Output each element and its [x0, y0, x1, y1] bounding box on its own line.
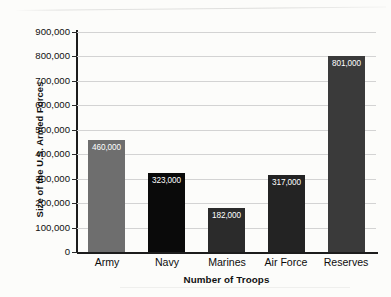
- x-axis-line: [77, 252, 378, 254]
- y-axis-tick-label: 900,000: [8, 26, 70, 37]
- plot-area: 460,000323,000182,000317,000801,000: [77, 32, 376, 252]
- bar-reserves: 801,000: [328, 56, 365, 252]
- y-axis-tick-label: 0: [8, 246, 70, 257]
- y-axis-tick-label: 200,000: [8, 197, 70, 208]
- y-axis-tick-label: 300,000: [8, 173, 70, 184]
- x-axis-title: Number of Troops: [77, 274, 376, 285]
- bar-navy: 323,000: [148, 173, 185, 252]
- bar-value-label: 182,000: [208, 211, 245, 220]
- bar-value-label: 801,000: [328, 59, 365, 68]
- scan-artifact-line-top: [14, 6, 386, 11]
- y-axis-tick-label: 800,000: [8, 50, 70, 61]
- y-axis-tick-label: 400,000: [8, 148, 70, 159]
- x-axis-tick-label: Reserves: [301, 256, 391, 268]
- y-axis-tick-label: 700,000: [8, 75, 70, 86]
- bar-value-label: 323,000: [148, 176, 185, 185]
- y-axis-tick-label: 100,000: [8, 222, 70, 233]
- bar-value-label: 317,000: [268, 178, 305, 187]
- scan-artifact-line-bottom: [120, 287, 350, 288]
- bar-army: 460,000: [88, 140, 125, 252]
- bar-chart-figure: Size of the U.S. Armed Forces 0100,00020…: [0, 0, 391, 297]
- y-axis-tick-label: 600,000: [8, 99, 70, 110]
- bar-value-label: 460,000: [88, 143, 125, 152]
- bar-marines: 182,000: [208, 208, 245, 252]
- bar-air-force: 317,000: [268, 175, 305, 252]
- y-axis-tick-label: 500,000: [8, 124, 70, 135]
- y-axis-tick: [72, 252, 77, 253]
